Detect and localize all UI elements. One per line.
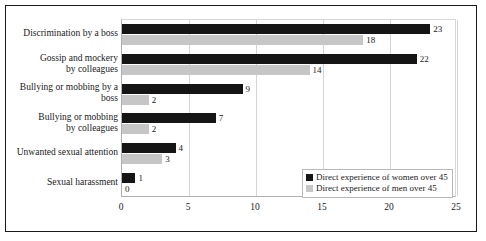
bar-value-label: 2: [152, 124, 157, 134]
category-label-line: by colleagues: [8, 123, 118, 134]
bar-value-label: 22: [420, 54, 429, 64]
legend-item[interactable]: Direct experience of men over 45: [306, 183, 448, 194]
bar-women: [122, 84, 243, 94]
bar-value-label: 4: [179, 143, 184, 153]
category-label-line: boss: [8, 93, 118, 104]
legend-item[interactable]: Direct experience of women over 45: [306, 172, 448, 183]
bar-men: [122, 65, 310, 75]
category-label-line: Gossip and mockery: [8, 53, 118, 64]
bar-value-label: 18: [366, 35, 375, 45]
bar-value-label: 9: [246, 84, 251, 94]
legend-label: Direct experience of women over 45: [316, 172, 448, 183]
category-label: Gossip and mockeryby colleagues: [8, 53, 118, 75]
legend-swatch-icon: [306, 174, 313, 181]
category-label: Unwanted sexual attention: [8, 147, 118, 158]
category-label: Bullying or mobbingby colleagues: [8, 112, 118, 134]
bar-women: [122, 173, 135, 183]
bar-women: [122, 24, 430, 34]
x-axis-tick-labels: 0510152025: [121, 202, 456, 222]
category-label-line: Unwanted sexual attention: [8, 147, 118, 158]
bar-value-label: 14: [313, 65, 322, 75]
category-label-line: Sexual harassment: [8, 177, 118, 188]
bar-value-label: 3: [165, 154, 170, 164]
category-label-line: Discrimination by a boss: [8, 28, 118, 39]
x-tick-label: 10: [250, 202, 260, 212]
legend-swatch-icon: [306, 185, 313, 192]
bar-value-label: 2: [152, 95, 157, 105]
bar-men: [122, 35, 363, 45]
x-tick-label: 0: [119, 202, 124, 212]
bar-value-label: 7: [219, 113, 224, 123]
bar-group: 92: [122, 84, 455, 105]
category-label-line: by colleagues: [8, 64, 118, 75]
category-label: Discrimination by a boss: [8, 28, 118, 39]
bar-group: 72: [122, 113, 455, 134]
x-tick-label: 15: [317, 202, 327, 212]
legend-label: Direct experience of men over 45: [316, 183, 437, 194]
x-tick-label: 25: [451, 202, 461, 212]
category-label: Bullying or mobbing by aboss: [8, 82, 118, 104]
bar-women: [122, 143, 176, 153]
category-label-line: Bullying or mobbing: [8, 112, 118, 123]
bar-value-label: 23: [433, 24, 442, 34]
category-axis-labels: Discrimination by a bossGossip and mocke…: [6, 19, 118, 197]
bar-women: [122, 113, 216, 123]
x-tick-label: 5: [186, 202, 191, 212]
bar-value-label: 1: [138, 173, 143, 183]
bar-men: [122, 124, 149, 134]
bar-women: [122, 54, 417, 64]
x-tick-label: 20: [384, 202, 394, 212]
bar-group: 2318: [122, 24, 455, 45]
category-label-line: Bullying or mobbing by a: [8, 82, 118, 93]
bar-value-label: 0: [125, 184, 130, 194]
bar-group: 2214: [122, 54, 455, 75]
chart-frame: Discrimination by a bossGossip and mocke…: [5, 5, 477, 232]
bar-men: [122, 95, 149, 105]
bar-men: [122, 154, 162, 164]
bar-group: 43: [122, 143, 455, 164]
category-label: Sexual harassment: [8, 177, 118, 188]
chart-legend: Direct experience of women over 45Direct…: [302, 169, 453, 198]
gridline: [457, 20, 458, 196]
